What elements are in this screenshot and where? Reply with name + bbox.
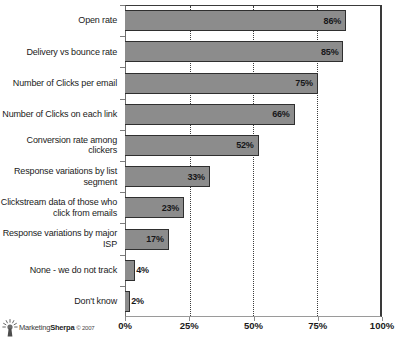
bar-value-label: 17% bbox=[146, 234, 167, 244]
bar-value-label: 23% bbox=[162, 203, 183, 213]
logo-text: MarketingSherpa © 2007 bbox=[19, 323, 95, 333]
bar-value-label: 86% bbox=[324, 16, 345, 26]
y-axis-label: None - we do not track bbox=[0, 255, 117, 286]
bar: 85% bbox=[125, 41, 343, 62]
logo-copyright: © 2007 bbox=[76, 325, 94, 331]
y-axis-labels: Open rateDelivery vs bounce rateNumber o… bbox=[0, 5, 121, 317]
marketingsherpa-logo: MarketingSherpa © 2007 bbox=[2, 316, 122, 340]
bar: 4% bbox=[125, 260, 135, 281]
y-axis-label: Open rate bbox=[0, 5, 117, 36]
brand-prefix: Marketing bbox=[19, 323, 50, 332]
bar-value-label: 4% bbox=[134, 265, 149, 275]
y-axis-label: Don't know bbox=[0, 286, 117, 317]
y-axis-label: Number of Clicks on each link bbox=[0, 99, 117, 130]
y-axis-label: Number of Clicks per email bbox=[0, 67, 117, 98]
bar: 33% bbox=[125, 166, 210, 187]
bar-row: 23% bbox=[125, 197, 382, 218]
bar-value-label: 2% bbox=[129, 296, 144, 306]
bar: 23% bbox=[125, 197, 184, 218]
bar: 75% bbox=[125, 73, 318, 94]
bar-row: 17% bbox=[125, 229, 382, 250]
y-axis-label: Clickstream data of those who click from… bbox=[0, 192, 117, 223]
x-axis-tick-label: 100% bbox=[370, 320, 394, 331]
bar-value-label: 66% bbox=[272, 109, 293, 119]
x-axis-tick-label: 25% bbox=[180, 320, 199, 331]
bar: 2% bbox=[125, 291, 130, 312]
bar-row: 75% bbox=[125, 73, 382, 94]
y-axis-label: Response variations by list segment bbox=[0, 161, 117, 192]
bar-chart: Open rateDelivery vs bounce rateNumber o… bbox=[0, 0, 404, 342]
bar-value-label: 85% bbox=[321, 47, 342, 57]
bar-value-label: 33% bbox=[187, 172, 208, 182]
bar: 52% bbox=[125, 135, 259, 156]
bar-row: 66% bbox=[125, 104, 382, 125]
bar-row: 33% bbox=[125, 166, 382, 187]
sunburst-icon bbox=[2, 319, 18, 337]
y-axis-label: Delivery vs bounce rate bbox=[0, 36, 117, 67]
bar-row: 4% bbox=[125, 260, 382, 281]
bar-row: 2% bbox=[125, 291, 382, 312]
y-axis-label: Response variations by major ISP bbox=[0, 223, 117, 254]
bar: 86% bbox=[125, 10, 346, 31]
bar-row: 85% bbox=[125, 41, 382, 62]
bar: 66% bbox=[125, 104, 295, 125]
x-axis-labels: 0%25%50%75%100% bbox=[125, 320, 382, 336]
x-axis-tick-label: 50% bbox=[244, 320, 263, 331]
bar: 17% bbox=[125, 229, 169, 250]
x-axis-tick-label: 75% bbox=[308, 320, 327, 331]
brand-suffix: Sherpa bbox=[50, 323, 74, 332]
bar-value-label: 52% bbox=[236, 140, 257, 150]
bars-group: 86%85%75%66%52%33%23%17%4%2% bbox=[125, 5, 382, 317]
bar-row: 52% bbox=[125, 135, 382, 156]
bar-row: 86% bbox=[125, 10, 382, 31]
bar-value-label: 75% bbox=[295, 78, 316, 88]
y-axis-label: Conversion rate among clickers bbox=[0, 130, 117, 161]
